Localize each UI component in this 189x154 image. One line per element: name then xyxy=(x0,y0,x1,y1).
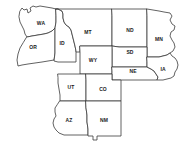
state-label-id: ID xyxy=(59,40,64,46)
state-label-az: AZ xyxy=(66,117,73,123)
state-label-or: OR xyxy=(29,44,37,50)
state-label-wy: WY xyxy=(89,57,98,63)
state-label-mt: MT xyxy=(84,29,91,35)
state-label-mn: MN xyxy=(155,36,163,42)
map-canvas: WAORIDMTNDMNSDWYNEIAUTCOAZNM xyxy=(0,0,189,154)
state-label-ia: IA xyxy=(160,66,165,72)
state-label-nm: NM xyxy=(100,117,108,123)
state-label-ut: UT xyxy=(68,84,75,90)
state-label-nd: ND xyxy=(126,27,134,33)
state-label-ne: NE xyxy=(129,68,137,74)
state-label-co: CO xyxy=(99,86,107,92)
state-label-wa: WA xyxy=(37,20,46,26)
state-label-sd: SD xyxy=(126,49,133,55)
us-states-map: WAORIDMTNDMNSDWYNEIAUTCOAZNM xyxy=(0,0,189,154)
state-shape-mn[interactable] xyxy=(147,9,175,57)
